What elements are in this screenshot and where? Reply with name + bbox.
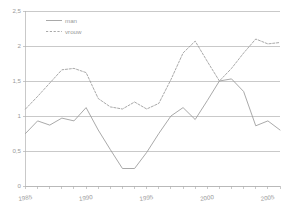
x-tickmarks-group — [26, 186, 281, 189]
x-tick-label: 1985 — [18, 193, 33, 202]
chart-legend: man vrouw — [46, 17, 82, 35]
x-tick-label: 1995 — [139, 193, 154, 202]
x-tick-label: 1990 — [78, 193, 93, 202]
data-series-group — [26, 39, 281, 169]
y-tick-label: 0,5 — [12, 147, 21, 154]
y-tick-label: 2 — [18, 42, 22, 49]
y-tick-label: 1 — [18, 112, 22, 119]
y-tick-label: 1,5 — [12, 77, 21, 84]
chart-canvas: 00,511,522,5 19851990199520002005 man vr… — [0, 0, 285, 216]
legend-label-man: man — [65, 17, 78, 24]
line-chart: 00,511,522,5 19851990199520002005 man vr… — [0, 0, 285, 216]
y-tick-label: 2,5 — [12, 7, 21, 14]
series-line-vrouw — [26, 39, 281, 109]
x-tick-label: 2000 — [200, 193, 215, 202]
legend-label-vrouw: vrouw — [65, 28, 82, 35]
y-tick-label: 0 — [18, 182, 22, 189]
series-line-man — [26, 79, 281, 169]
y-tickmarks-group — [23, 11, 26, 186]
gridlines-group — [26, 11, 281, 186]
x-axis-labels-group: 19851990199520002005 — [18, 193, 276, 202]
y-axis-labels-group: 00,511,522,5 — [12, 7, 21, 189]
x-tick-label: 2005 — [260, 193, 275, 202]
